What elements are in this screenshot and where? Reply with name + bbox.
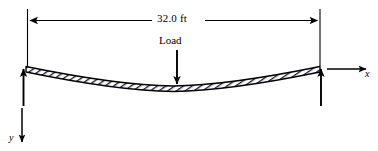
y-axis-label: y	[9, 133, 13, 143]
x-axis-label: x	[365, 69, 369, 79]
load-label: Load	[159, 35, 182, 46]
beam-hatched-body	[26, 67, 320, 92]
beam-diagram-canvas	[0, 0, 378, 151]
beam-deflection-figure: 32.0 ft Load x y	[0, 0, 378, 151]
deflected-beam	[26, 67, 320, 92]
span-dimension-label: 32.0 ft	[157, 13, 187, 24]
